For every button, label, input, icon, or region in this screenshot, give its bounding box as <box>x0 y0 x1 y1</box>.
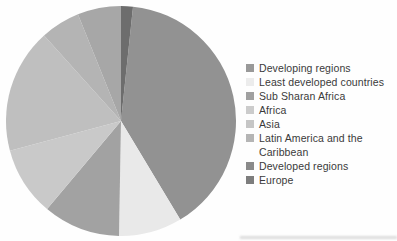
legend-swatch-africa <box>246 106 254 114</box>
legend-item-europe: Europe <box>246 173 394 187</box>
legend-swatch-latin-america-caribbean <box>246 134 254 142</box>
legend-swatch-europe <box>246 176 254 184</box>
legend-swatch-developed-regions <box>246 162 254 170</box>
legend-label-developing-regions: Developing regions <box>259 61 391 75</box>
legend-swatch-sub-sharan-africa <box>246 92 254 100</box>
legend-item-latin-america-caribbean: Latin America and the Caribbean <box>246 131 394 159</box>
legend-item-asia: Asia <box>246 117 394 131</box>
legend-swatch-asia <box>246 120 254 128</box>
legend-label-least-developed-countries: Least developed countries <box>259 75 391 89</box>
legend-item-least-developed-countries: Least developed countries <box>246 75 394 89</box>
legend-label-europe: Europe <box>259 173 391 187</box>
legend-label-latin-america-caribbean: Latin America and the Caribbean <box>259 131 391 159</box>
legend-swatch-least-developed-countries <box>246 78 254 86</box>
legend-label-asia: Asia <box>259 117 391 131</box>
legend-item-developed-regions: Developed regions <box>246 159 394 173</box>
pie-chart-figure: Developing regions Least developed count… <box>0 0 397 241</box>
legend-item-developing-regions: Developing regions <box>246 61 394 75</box>
legend-label-sub-sharan-africa: Sub Sharan Africa <box>259 89 391 103</box>
legend-item-africa: Africa <box>246 103 394 117</box>
legend-item-sub-sharan-africa: Sub Sharan Africa <box>246 89 394 103</box>
legend: Developing regions Least developed count… <box>246 61 394 187</box>
scan-artifact <box>240 236 397 239</box>
legend-label-africa: Africa <box>259 103 391 117</box>
legend-label-developed-regions: Developed regions <box>259 159 391 173</box>
legend-swatch-developing-regions <box>246 64 254 72</box>
